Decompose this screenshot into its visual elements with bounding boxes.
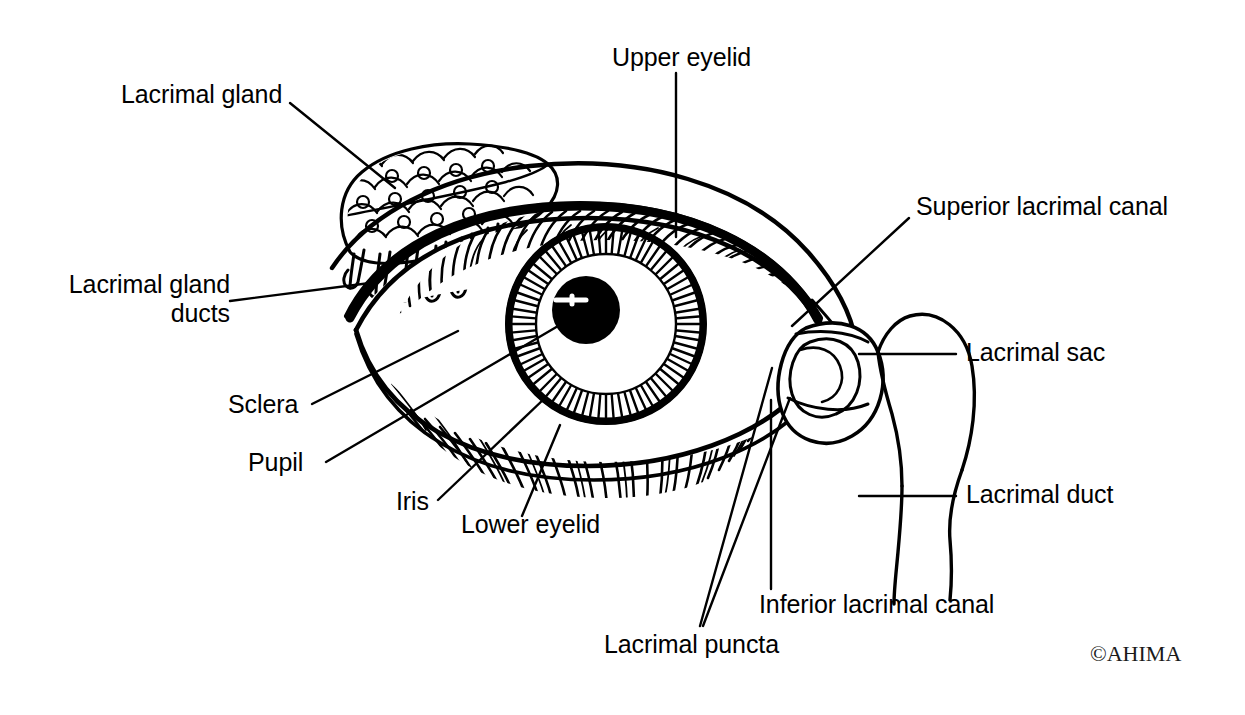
label-pupil: Pupil [248, 448, 303, 477]
label-lower-eyelid: Lower eyelid [461, 510, 600, 539]
leader-lacrimal-gland-ducts [230, 283, 370, 301]
leader-lacrimal-gland [290, 103, 395, 188]
label-lacrimal-gland-ducts-line2: ducts [171, 299, 230, 327]
label-lacrimal-sac: Lacrimal sac [966, 338, 1105, 367]
label-lacrimal-puncta: Lacrimal puncta [604, 630, 779, 659]
copyright-notice: ©AHIMA [1090, 641, 1181, 667]
leader-lacrimal-puncta-upper [700, 368, 772, 626]
lacrimal-duct-shape [894, 470, 962, 604]
label-sclera: Sclera [228, 390, 298, 419]
label-lacrimal-gland-ducts-line1: Lacrimal gland [69, 270, 230, 298]
anatomy-figure: Lacrimal gland Lacrimal glandducts Upper… [0, 0, 1245, 715]
leader-superior-lacrimal-canal [792, 218, 909, 326]
pupil-shape [552, 276, 620, 344]
label-lacrimal-duct: Lacrimal duct [966, 480, 1113, 509]
label-upper-eyelid: Upper eyelid [612, 43, 751, 72]
label-inferior-lacrimal-canal: Inferior lacrimal canal [759, 590, 994, 619]
label-lacrimal-gland: Lacrimal gland [121, 80, 282, 109]
lacrimal-sac-shape [878, 314, 974, 486]
label-iris: Iris [396, 487, 429, 516]
label-lacrimal-gland-ducts: Lacrimal glandducts [62, 270, 230, 328]
label-superior-lacrimal-canal: Superior lacrimal canal [916, 192, 1168, 221]
